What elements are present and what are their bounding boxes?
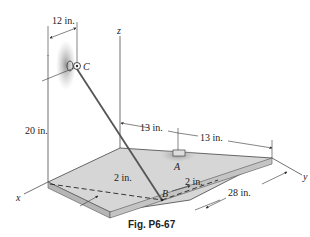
- y-axis-label: y: [302, 171, 308, 182]
- x-axis-label: x: [15, 192, 21, 203]
- z-axis-label: z: [116, 25, 121, 36]
- point-b-label: B: [162, 188, 168, 199]
- dim-20-label: 20 in.: [25, 125, 48, 136]
- x-axis: [24, 182, 48, 194]
- support-a: [160, 148, 196, 162]
- figure-caption: Fig. P6-67: [128, 219, 176, 230]
- dim-12-label: 12 in.: [52, 15, 75, 26]
- eyebolt-center: [76, 65, 78, 67]
- dim-2-x-label: 2 in.: [114, 172, 132, 183]
- point-a-label: A: [173, 161, 181, 172]
- dim-28-label: 28 in.: [228, 187, 251, 198]
- y-axis: [272, 158, 302, 175]
- figure-p6-67: z x y C A B 12 in. 20 in. 13 in. 13 in.: [0, 0, 310, 237]
- dim-13-left-label: 13 in.: [140, 122, 163, 133]
- point-c-label: C: [83, 61, 90, 72]
- dim-2-y-label: 2 in.: [185, 176, 203, 187]
- point-b-marker: [161, 199, 164, 202]
- plate: [48, 148, 272, 218]
- dim-13-right-label: 13 in.: [200, 132, 223, 143]
- bracket-a-icon: [173, 150, 185, 156]
